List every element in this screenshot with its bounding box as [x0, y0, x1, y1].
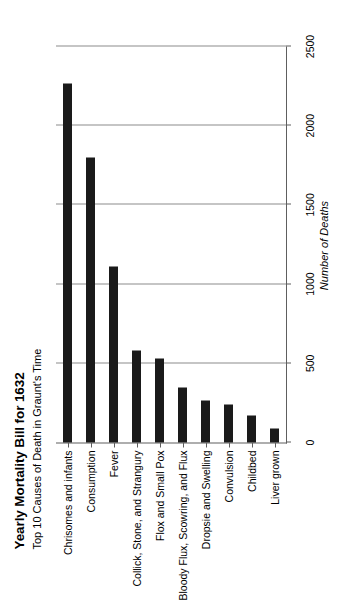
title-block: Yearly Mortality Bill for 1632 Top 10 Ca… [12, 129, 45, 549]
value-tick-label-2000: 2000 [304, 102, 316, 148]
value-tick-0 [286, 441, 291, 442]
chart-subtitle: Top 10 Causes of Death in Graunt's Time [30, 129, 45, 549]
value-tick-500 [286, 362, 291, 363]
plot-area: 05001000150020002500 Chrisomes and infan… [56, 46, 287, 443]
bar [155, 358, 164, 442]
category-tick [68, 442, 69, 447]
category-label: Fever [108, 450, 119, 477]
bar [201, 400, 210, 442]
category-tick [137, 442, 138, 447]
category-label: Childbed [246, 450, 257, 491]
value-tick-2500 [286, 45, 291, 46]
category-tick [91, 442, 92, 447]
bar-series [56, 46, 286, 442]
category-label: Convulsion [223, 450, 234, 502]
bar [247, 415, 256, 442]
category-label: Flox and Small Pox [154, 450, 165, 540]
page-title: Yearly Mortality Bill for 1632 [12, 129, 28, 549]
value-tick-label-0: 0 [304, 419, 316, 465]
value-tick-label-500: 500 [304, 340, 316, 386]
value-tick-label-1500: 1500 [304, 181, 316, 227]
category-label: Bloody Flux, Scowring, and Flux [177, 450, 188, 600]
bar [63, 83, 72, 442]
value-tick-1500 [286, 203, 291, 204]
category-tick [252, 442, 253, 447]
category-label: Chrisomes and infants [62, 450, 73, 554]
category-tick [114, 442, 115, 447]
category-tick [275, 442, 276, 447]
bar [109, 267, 118, 443]
value-tick-label-1000: 1000 [304, 261, 316, 307]
bar [270, 428, 279, 442]
value-tick-1000 [286, 283, 291, 284]
category-tick [183, 442, 184, 447]
category-label: Consumption [85, 450, 96, 512]
category-tick [160, 442, 161, 447]
category-tick [229, 442, 230, 447]
bar [132, 350, 141, 442]
category-label: Liver grown [269, 450, 280, 504]
category-label: Collick, Stone, and Strangury [131, 450, 142, 586]
value-tick-label-2500: 2500 [304, 23, 316, 69]
value-tick-2000 [286, 124, 291, 125]
category-tick [206, 442, 207, 447]
bar [178, 387, 187, 442]
bar [86, 157, 95, 442]
category-label: Dropsie and Swelling [200, 450, 211, 549]
bar [224, 404, 233, 442]
value-axis-title: Number of Deaths [318, 47, 330, 443]
